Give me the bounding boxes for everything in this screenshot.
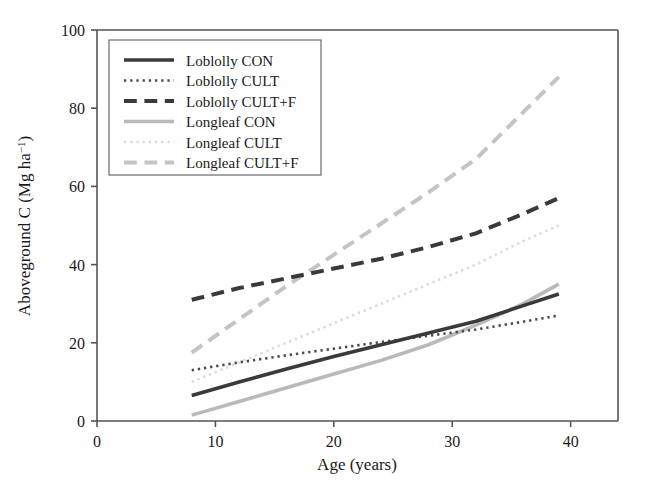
y-tick-label: 40 xyxy=(69,257,85,274)
y-axis-title-superscript: −1 xyxy=(15,142,27,154)
x-axis-ticks xyxy=(97,421,571,427)
legend-label: Longleaf CULT+F xyxy=(186,155,298,171)
x-axis-tick-labels: 010203040 xyxy=(93,433,579,450)
y-tick-label: 100 xyxy=(61,22,85,39)
legend-label: Loblolly CON xyxy=(186,53,273,69)
legend-label: Longleaf CON xyxy=(186,114,276,130)
y-axis-title-main: Aboveground C (Mg ha xyxy=(15,153,34,316)
x-tick-label: 40 xyxy=(563,433,579,450)
chart-figure: 020406080100 010203040 Age (years) Above… xyxy=(0,0,651,499)
y-tick-label: 0 xyxy=(77,413,85,430)
x-tick-label: 20 xyxy=(326,433,342,450)
legend-label: Loblolly CULT xyxy=(186,73,279,89)
x-tick-label: 10 xyxy=(207,433,223,450)
x-axis-title: Age (years) xyxy=(317,455,397,474)
chart-legend: Loblolly CONLoblolly CULTLoblolly CULT+F… xyxy=(109,40,321,175)
x-tick-label: 0 xyxy=(93,433,101,450)
y-axis-ticks xyxy=(91,30,97,421)
legend-label: Loblolly CULT+F xyxy=(186,94,296,110)
y-tick-label: 60 xyxy=(69,178,85,195)
y-axis-title-tail: ) xyxy=(15,136,34,142)
legend-label: Longleaf CULT xyxy=(186,135,282,151)
y-tick-label: 80 xyxy=(69,100,85,117)
y-tick-label: 20 xyxy=(69,335,85,352)
x-tick-label: 30 xyxy=(444,433,460,450)
svg-text:Aboveground C (Mg ha−1): Aboveground C (Mg ha−1) xyxy=(15,136,34,316)
y-axis-tick-labels: 020406080100 xyxy=(61,22,85,430)
y-axis-title: Aboveground C (Mg ha−1) xyxy=(15,136,34,316)
